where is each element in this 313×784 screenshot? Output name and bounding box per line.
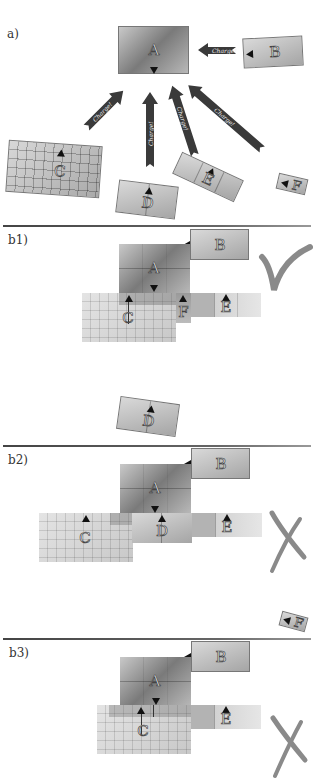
block-c-label: C — [135, 724, 151, 739]
svg-text:Charge!: Charge! — [147, 121, 155, 146]
checkmark-icon — [262, 245, 313, 315]
block-f: F — [279, 611, 309, 632]
block-d: D — [116, 396, 180, 437]
cross-icon — [268, 511, 308, 573]
block-c-label: C — [77, 531, 93, 546]
block-b: B — [190, 229, 249, 260]
charge-arrows: Charge! Charge! Charge! Charge! Charge! — [0, 0, 313, 220]
block-e-label: E — [218, 300, 234, 315]
block-c: C — [39, 513, 133, 562]
cross-icon — [271, 716, 311, 778]
separator-b2-b3 — [3, 638, 311, 640]
port-up-icon — [158, 515, 166, 522]
panel-label-b3: b3) — [9, 646, 29, 660]
block-b: B — [191, 641, 250, 672]
block-c: C — [82, 293, 176, 342]
port-down-icon — [151, 506, 159, 513]
svg-text:Charge!: Charge! — [212, 47, 237, 55]
block-d: D — [132, 513, 192, 543]
separator-b1-b2 — [3, 445, 311, 447]
svg-text:Charge!: Charge! — [91, 100, 115, 124]
separator-a-b1 — [3, 225, 311, 227]
block-f: F — [176, 293, 191, 323]
block-e: E — [192, 513, 262, 537]
port-down-icon — [150, 285, 158, 292]
block-a-label: A — [146, 261, 162, 276]
block-b-label: B — [213, 650, 229, 665]
panel-label-b1: b1) — [8, 233, 28, 247]
charge-arrow-c-icon: Charge! — [81, 85, 129, 133]
block-d-label: D — [139, 413, 157, 430]
port-up-icon — [82, 515, 90, 522]
port-left-icon — [282, 615, 291, 625]
block-c: C — [97, 705, 191, 754]
block-e: E — [191, 705, 261, 729]
charge-arrow-d-icon: Charge! — [142, 92, 158, 167]
port-up-icon — [179, 295, 187, 302]
block-e-label: E — [218, 712, 234, 727]
panel-label-b2: b2) — [8, 453, 28, 467]
svg-text:Charge!: Charge! — [175, 106, 190, 133]
port-up-icon — [137, 707, 145, 714]
block-b-label: B — [213, 457, 229, 472]
block-a: A — [120, 464, 191, 513]
charge-arrow-b-icon: Charge! — [198, 43, 237, 57]
charge-arrow-f-icon: Charge! — [183, 79, 267, 155]
block-b: B — [191, 448, 250, 479]
port-down-icon — [152, 698, 160, 705]
block-c-label: C — [120, 311, 136, 326]
block-e: E — [191, 293, 261, 317]
block-a: A — [120, 657, 191, 706]
svg-text:Charge!: Charge! — [212, 106, 236, 129]
port-up-icon — [125, 295, 133, 302]
block-d-label: D — [154, 524, 170, 539]
block-a: A — [119, 244, 190, 293]
block-b-label: B — [212, 238, 228, 253]
block-f-label: F — [176, 305, 191, 320]
block-a-label: A — [147, 674, 163, 689]
block-a-label: A — [147, 481, 163, 496]
block-e-label: E — [219, 520, 235, 535]
block-f-label: F — [290, 615, 307, 631]
